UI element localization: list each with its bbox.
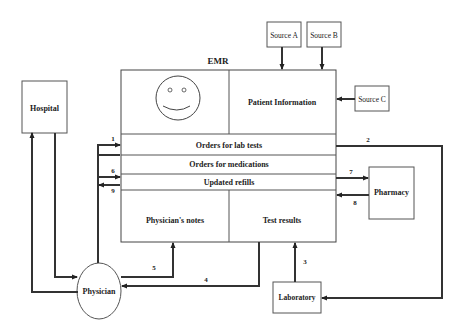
laboratory-label: Laboratory xyxy=(278,293,315,302)
orders-lab-tests-section: Orders for lab tests xyxy=(196,141,262,150)
orders-medications-section: Orders for medications xyxy=(189,160,268,169)
arrow-trunk-to-1-corner xyxy=(98,155,120,158)
flow-label-9: 9 xyxy=(111,187,115,195)
flow-label-2: 2 xyxy=(366,136,370,144)
emr-title: EMR xyxy=(208,56,229,66)
source-c-node: Source C xyxy=(355,86,389,111)
hospital-node: Hospital xyxy=(22,81,67,133)
arrow-hospital-to-physician xyxy=(55,133,77,277)
source-c-label: Source C xyxy=(358,95,386,104)
patient-information-section: Patient Information xyxy=(248,98,317,107)
flow-label-7: 7 xyxy=(349,168,353,176)
flow-label-8: 8 xyxy=(353,199,357,207)
arrow-flow-1 xyxy=(98,145,120,158)
emr-flow-diagram: EMR Patient Information Orders for lab t… xyxy=(0,0,467,333)
arrow-flow-5 xyxy=(121,243,173,277)
flow-label-1: 1 xyxy=(111,135,115,143)
arrow-flow-4 xyxy=(122,242,259,286)
test-results-section: Test results xyxy=(263,216,301,225)
pharmacy-node: Pharmacy xyxy=(369,167,414,219)
pharmacy-label: Pharmacy xyxy=(374,188,409,197)
physician-node: Physician xyxy=(77,263,121,319)
updated-refills-section: Updated refills xyxy=(204,178,255,187)
laboratory-node: Laboratory xyxy=(273,282,321,313)
source-a-node: Source A xyxy=(267,22,301,47)
flow-label-4: 4 xyxy=(204,276,208,284)
physician-label: Physician xyxy=(83,287,116,296)
flow-label-6: 6 xyxy=(111,167,115,175)
source-b-node: Source B xyxy=(307,22,341,47)
physicians-notes-section: Physician's notes xyxy=(146,216,204,225)
flow-label-5: 5 xyxy=(152,264,156,272)
flow-label-3: 3 xyxy=(303,258,307,266)
source-b-label: Source B xyxy=(310,31,338,40)
source-a-label: Source A xyxy=(270,31,298,40)
hospital-label: Hospital xyxy=(30,104,60,113)
